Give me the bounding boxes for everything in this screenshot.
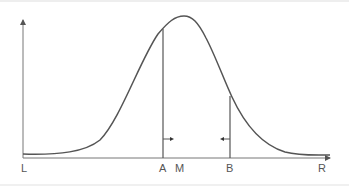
bottom-divider [0,184,349,186]
label-m: M [175,162,184,174]
label-b: B [226,162,233,174]
label-r: R [318,162,326,174]
arrow-left-icon [220,137,224,141]
arrow-right-icon [170,137,174,141]
label-l: L [21,162,27,174]
bell-curve-diagram: L A M B R [0,0,349,188]
distribution-curve [23,16,330,155]
top-divider [0,0,349,2]
label-a: A [159,162,167,174]
diagram-frame: L A M B R [0,0,349,188]
